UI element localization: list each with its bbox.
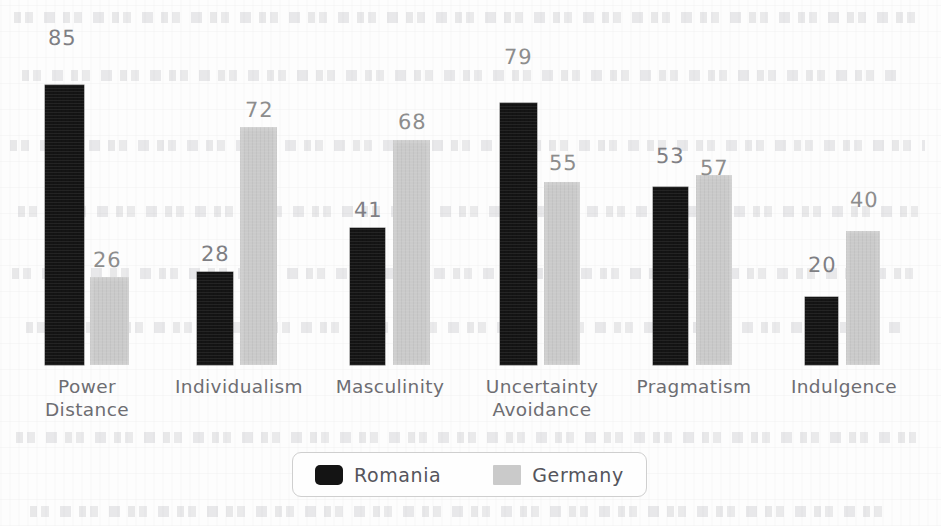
bar-texture bbox=[696, 175, 732, 365]
axis-label-individualism: Individualism bbox=[168, 376, 310, 399]
axis-label-pragmatism: Pragmatism bbox=[623, 376, 765, 399]
legend-item-germany[interactable]: Germany bbox=[493, 464, 624, 486]
value-label-germany-uncertainty-avoidance: 55 bbox=[549, 151, 578, 175]
bar-germany-power-distance[interactable] bbox=[90, 277, 129, 365]
chart-canvas: 85 26 28 72 41 68 79 55 53 57 20 40 Powe… bbox=[0, 0, 941, 526]
value-label-germany-masculinity: 68 bbox=[398, 110, 427, 134]
value-label-romania-uncertainty-avoidance: 79 bbox=[504, 45, 533, 69]
bar-germany-individualism[interactable] bbox=[240, 127, 277, 365]
legend-label-romania: Romania bbox=[354, 464, 441, 486]
bar-romania-uncertainty-avoidance[interactable] bbox=[500, 103, 537, 365]
bar-germany-pragmatism[interactable] bbox=[696, 175, 732, 365]
value-label-germany-indulgence: 40 bbox=[850, 188, 879, 212]
plot-area: 85 26 28 72 41 68 79 55 53 57 20 40 bbox=[0, 0, 941, 365]
bar-texture bbox=[846, 231, 880, 365]
bar-texture bbox=[805, 297, 838, 365]
bar-texture bbox=[90, 277, 129, 365]
axis-label-indulgence: Indulgence bbox=[777, 376, 911, 399]
bar-germany-masculinity[interactable] bbox=[393, 140, 430, 365]
axis-label-uncertainty-avoidance: Uncertainty Avoidance bbox=[471, 376, 613, 421]
value-label-romania-indulgence: 20 bbox=[808, 253, 837, 277]
value-label-germany-power-distance: 26 bbox=[93, 248, 122, 272]
bar-germany-uncertainty-avoidance[interactable] bbox=[544, 182, 580, 365]
bar-texture bbox=[45, 85, 84, 365]
value-label-romania-power-distance: 85 bbox=[48, 26, 77, 50]
value-label-romania-masculinity: 41 bbox=[354, 198, 383, 222]
bar-texture bbox=[350, 228, 385, 365]
bar-romania-indulgence[interactable] bbox=[805, 297, 838, 365]
axis-label-masculinity: Masculinity bbox=[322, 376, 458, 399]
bar-texture bbox=[500, 103, 537, 365]
legend-label-germany: Germany bbox=[532, 464, 624, 486]
legend-swatch-germany-icon bbox=[493, 465, 521, 485]
bar-texture bbox=[240, 127, 277, 365]
scan-ghost-text bbox=[16, 432, 916, 443]
bar-romania-masculinity[interactable] bbox=[350, 228, 385, 365]
legend: Romania Germany bbox=[292, 452, 647, 497]
bar-germany-indulgence[interactable] bbox=[846, 231, 880, 365]
scan-ghost-text bbox=[30, 506, 890, 517]
bar-texture bbox=[393, 140, 430, 365]
legend-item-romania[interactable]: Romania bbox=[315, 464, 441, 486]
bar-texture bbox=[544, 182, 580, 365]
bar-texture bbox=[197, 272, 233, 365]
bar-romania-pragmatism[interactable] bbox=[653, 187, 688, 365]
value-label-germany-individualism: 72 bbox=[245, 98, 274, 122]
legend-swatch-romania-icon bbox=[315, 465, 343, 485]
bar-romania-power-distance[interactable] bbox=[45, 85, 84, 365]
value-label-romania-individualism: 28 bbox=[201, 242, 230, 266]
value-label-germany-pragmatism: 57 bbox=[700, 156, 729, 180]
value-label-romania-pragmatism: 53 bbox=[656, 144, 685, 168]
bar-romania-individualism[interactable] bbox=[197, 272, 233, 365]
bar-texture bbox=[653, 187, 688, 365]
axis-label-power-distance: Power Distance bbox=[22, 376, 152, 421]
